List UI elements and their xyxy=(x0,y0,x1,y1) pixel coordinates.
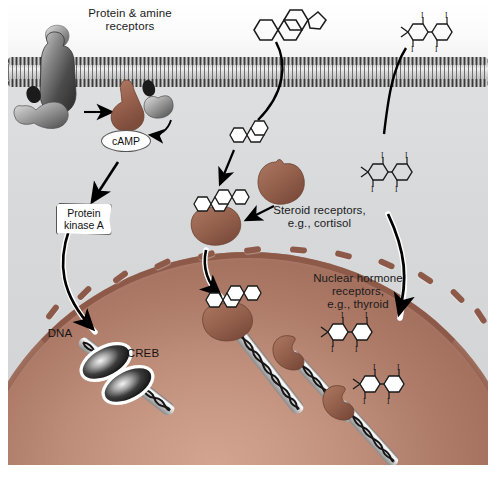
nuclear-hormone-receptor-2 xyxy=(323,386,354,420)
diagram-frame: I I I I I I I I I I I I I I I I Protein … xyxy=(8,2,488,465)
ligand-ring xyxy=(227,286,244,300)
iodine-label: I xyxy=(331,345,334,354)
iodine-label: I xyxy=(411,45,414,54)
nuclear-hormone-line3: e.g., thyroid xyxy=(298,298,418,311)
thyroid-ring-2 xyxy=(432,24,452,40)
nuclear-hormone-line2: receptors, xyxy=(298,285,418,298)
thyroid-side-chain xyxy=(401,27,408,37)
steroid-ring-a xyxy=(254,20,278,40)
camp-production-arrow xyxy=(150,120,171,135)
steroid-ring xyxy=(230,128,247,142)
steroid-receptors-line1: Steroid receptors, xyxy=(257,204,382,217)
iodine-label: I xyxy=(395,185,398,194)
ligand-ring xyxy=(194,197,211,211)
thyroid-ring-2 xyxy=(384,376,404,392)
bound-steroid-ligand xyxy=(194,190,249,211)
thyroid-ring-1 xyxy=(368,164,388,180)
camp-to-pka-arrow xyxy=(92,162,118,202)
steroid-receptor-unbound xyxy=(258,160,304,205)
steroid-receptors-label: Steroid receptors, e.g., cortisol xyxy=(257,204,382,230)
nuclear-hormone-receptors-label: Nuclear hormone receptors, e.g., thyroid xyxy=(298,272,418,311)
iodine-label: I xyxy=(445,11,448,20)
steroid-receptor-complex xyxy=(191,190,249,245)
steroid-to-receptor-arrow xyxy=(220,150,234,184)
nuclear-hormone-line1: Nuclear hormone xyxy=(298,272,418,285)
steroid-receptors-line2: e.g., cortisol xyxy=(257,217,382,230)
steroid-receptor-bound xyxy=(191,206,241,245)
pka-to-creb-arrow xyxy=(63,230,95,332)
iodine-label: I xyxy=(381,151,384,160)
thyroid-hormone-molecule-cytoplasm xyxy=(361,157,412,187)
g-protein-anchor-knob xyxy=(142,80,155,96)
iodine-label: I xyxy=(387,397,390,406)
thyroid-diffusion-arrow xyxy=(384,48,406,134)
iodine-label: I xyxy=(341,311,344,320)
iodine-label: I xyxy=(405,151,408,160)
g-protein-beta-gamma xyxy=(14,102,68,129)
thyroid-hormone-molecule-nuclear xyxy=(321,317,372,347)
g-protein-subunit-right xyxy=(144,96,173,118)
iodine-label: I xyxy=(355,345,358,354)
protein-amine-receptors-line1: Protein & amine xyxy=(60,7,200,20)
steroid-ring-d xyxy=(308,12,326,29)
iodine-label: I xyxy=(371,185,374,194)
g-protein-alpha-subunit xyxy=(26,86,40,103)
steroid-ring xyxy=(251,121,268,135)
steroid-receptor-on-dna xyxy=(203,302,253,341)
thyroid-ring-1 xyxy=(408,24,428,40)
thyroid-ring-2 xyxy=(352,324,372,340)
thyroid-ring-1 xyxy=(328,324,348,340)
thyroid-hormone-molecule-top xyxy=(401,17,452,47)
steroid-molecule xyxy=(254,10,326,40)
iodine-label: I xyxy=(365,311,368,320)
ligand-ring xyxy=(206,293,223,307)
dna-label: DNA xyxy=(43,327,77,340)
nuclear-hormone-receptor-1 xyxy=(273,336,304,370)
thyroid-side-chain xyxy=(361,167,368,177)
protein-kinase-a-line1: Protein xyxy=(64,207,104,219)
ligand-ring xyxy=(244,286,261,300)
steroid-diffusion-arrow xyxy=(258,42,282,120)
bound-thyroid-ligand xyxy=(353,369,404,399)
thyroid-side-chain xyxy=(321,327,328,337)
iodine-label: I xyxy=(363,397,366,406)
iodine-label: I xyxy=(373,363,376,372)
steroid-molecule-cytoplasm xyxy=(230,121,268,142)
g-protein-coupled-receptor xyxy=(40,32,76,114)
protein-amine-receptors-line2: receptors xyxy=(60,20,200,33)
diagram-canvas: I I I I I I I I I I I I I I I I Protein … xyxy=(0,0,498,483)
iodine-label: I xyxy=(435,45,438,54)
iodine-label: I xyxy=(421,11,424,20)
protein-kinase-a-line2: kinase A xyxy=(64,219,104,231)
thyroid-ring-2 xyxy=(392,164,412,180)
ligand-ring xyxy=(232,190,249,204)
adenylyl-cyclase xyxy=(111,80,144,131)
protein-amine-receptors-label: Protein & amine receptors xyxy=(60,7,200,33)
iodine-label: I xyxy=(397,363,400,372)
thyroid-ring-1 xyxy=(360,376,380,392)
nuclear-receptor-dna-complex-2 xyxy=(323,369,404,465)
camp-callout: cAMP xyxy=(101,130,151,152)
protein-kinase-a-callout: Protein kinase A xyxy=(56,203,112,235)
ligand-ring xyxy=(215,190,232,204)
creb-label: CREB xyxy=(120,347,166,360)
thyroid-side-chain xyxy=(353,379,360,389)
